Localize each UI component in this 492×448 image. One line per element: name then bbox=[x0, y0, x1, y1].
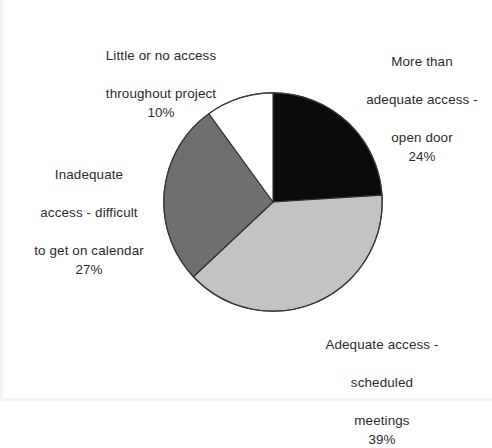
slice-label-adequate-access: Adequate access - scheduled meetings 39% bbox=[292, 316, 472, 448]
slice-label-line-1: Inadequate bbox=[55, 167, 123, 182]
slice-percent: 10% bbox=[76, 103, 246, 122]
scan-edge-left bbox=[0, 0, 3, 401]
slice-label-line-3: open door bbox=[391, 130, 453, 145]
slice-label-line-1: More than bbox=[391, 54, 453, 69]
slice-label-little-or-no-access: Little or no access throughout project 1… bbox=[76, 27, 246, 141]
slice-label-more-than-adequate-access: More than adequate access - open door 24… bbox=[352, 33, 492, 185]
slice-percent: 27% bbox=[8, 260, 170, 279]
slice-label-line-2: adequate access - bbox=[366, 92, 478, 107]
slice-label-line-1: Adequate access - bbox=[325, 337, 438, 352]
slice-label-inadequate-access: Inadequate access - difficult to get on … bbox=[8, 146, 170, 298]
slice-percent: 24% bbox=[352, 147, 492, 166]
slice-label-line-2: access - difficult bbox=[40, 205, 137, 220]
slice-label-line-2: scheduled bbox=[351, 375, 413, 390]
slice-label-line-3: meetings bbox=[354, 413, 409, 428]
slice-label-line-2: throughout project bbox=[106, 86, 216, 101]
slice-label-line-1: Little or no access bbox=[106, 48, 216, 63]
slice-percent: 39% bbox=[292, 430, 472, 448]
slice-label-line-3: to get on calendar bbox=[34, 243, 144, 258]
